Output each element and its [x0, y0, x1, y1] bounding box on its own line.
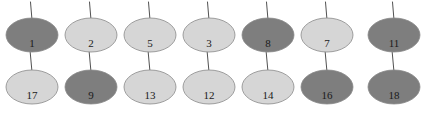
node-label-17: 17	[27, 89, 39, 101]
node-label-16: 16	[322, 89, 334, 101]
node-label-3: 3	[206, 37, 212, 49]
node-label-7: 7	[324, 37, 330, 49]
edge-7-to-16	[325, 50, 327, 72]
edge-incoming-5	[149, 2, 151, 20]
node-label-11: 11	[389, 37, 400, 49]
node-graph-svg: 125387111791312141618	[0, 0, 427, 114]
edge-2-to-9	[89, 50, 91, 72]
node-label-8: 8	[265, 37, 271, 49]
edge-incoming-8	[267, 2, 269, 20]
node-9[interactable]: 9	[65, 70, 117, 104]
node-1[interactable]: 1	[6, 18, 58, 52]
edge-incoming-1	[31, 2, 33, 20]
node-label-1: 1	[29, 37, 35, 49]
node-label-13: 13	[145, 89, 157, 101]
edge-8-to-14	[266, 50, 268, 72]
diagram-canvas: 125387111791312141618	[0, 0, 427, 114]
node-3[interactable]: 3	[183, 18, 235, 52]
edge-incoming-2	[90, 2, 92, 20]
node-12[interactable]: 12	[183, 70, 235, 104]
edge-incoming-3	[208, 2, 210, 20]
node-label-5: 5	[147, 37, 153, 49]
node-13[interactable]: 13	[124, 70, 176, 104]
node-17[interactable]: 17	[6, 70, 58, 104]
node-11[interactable]: 11	[368, 18, 420, 52]
edge-3-to-12	[207, 50, 209, 72]
edge-1-to-17	[30, 50, 32, 72]
node-7[interactable]: 7	[301, 18, 353, 52]
node-16[interactable]: 16	[301, 70, 353, 104]
node-label-9: 9	[88, 89, 94, 101]
node-2[interactable]: 2	[65, 18, 117, 52]
edge-incoming-11	[393, 2, 395, 20]
node-label-18: 18	[389, 89, 401, 101]
nodes-layer: 125387111791312141618	[6, 18, 420, 104]
node-18[interactable]: 18	[368, 70, 420, 104]
edge-11-to-18	[392, 50, 394, 72]
node-label-2: 2	[88, 37, 94, 49]
node-8[interactable]: 8	[242, 18, 294, 52]
node-label-12: 12	[204, 89, 215, 101]
node-5[interactable]: 5	[124, 18, 176, 52]
node-14[interactable]: 14	[242, 70, 294, 104]
edge-incoming-7	[326, 2, 328, 20]
edge-5-to-13	[148, 50, 150, 72]
node-label-14: 14	[263, 89, 275, 101]
